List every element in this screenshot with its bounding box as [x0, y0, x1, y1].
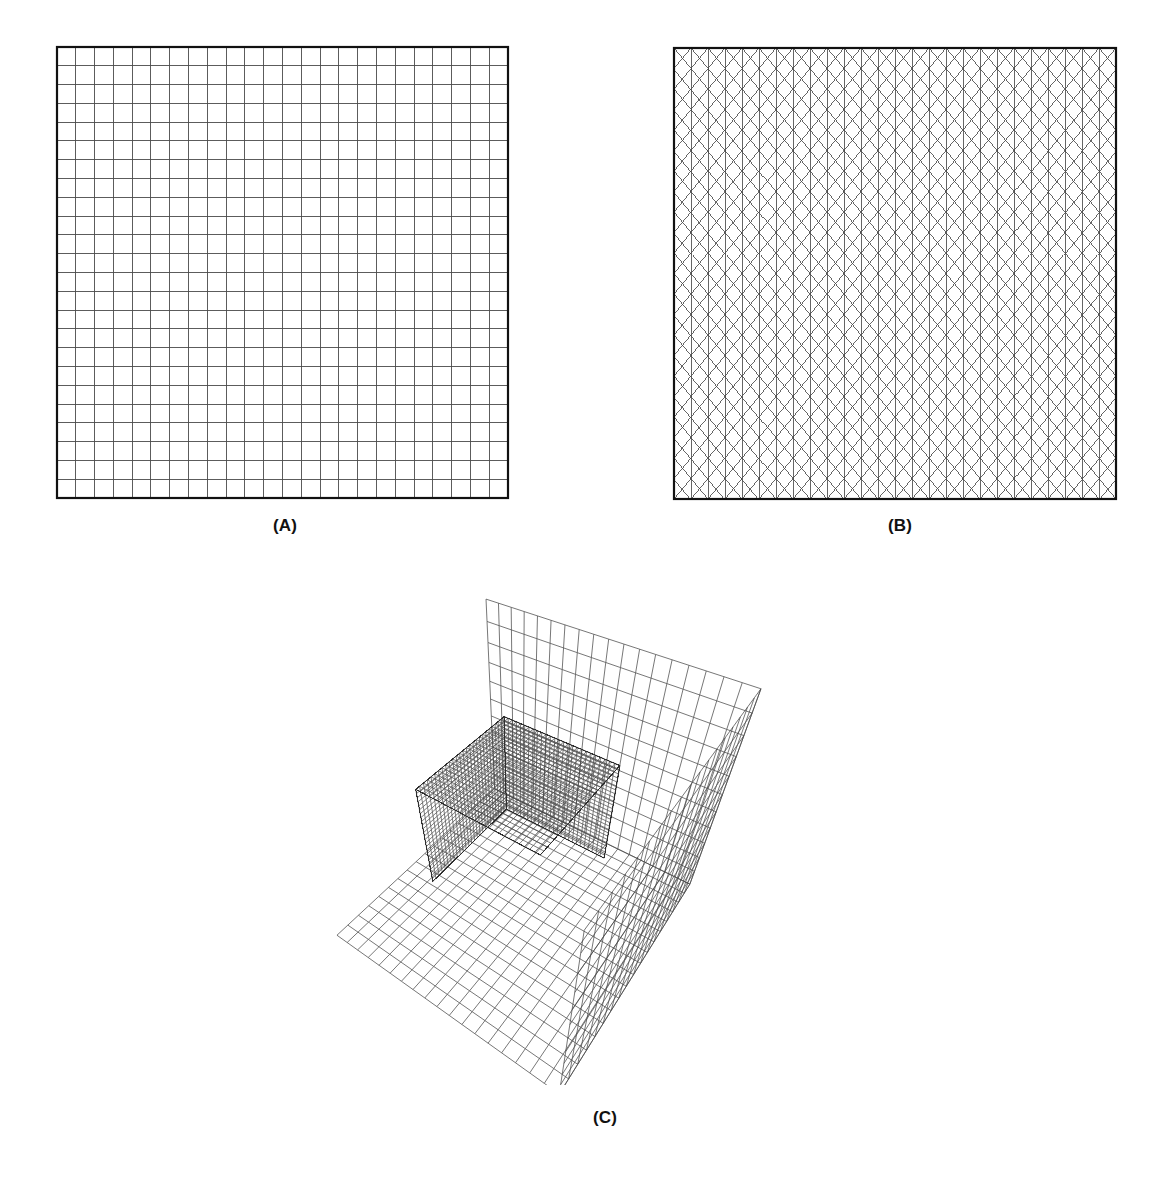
mesh-line-diagonal-left	[1031, 48, 1118, 499]
mesh-line-diagonal-right	[963, 48, 1118, 499]
mesh-line-diagonal-left	[997, 48, 1118, 499]
mesh-line-diagonal-right	[672, 48, 810, 499]
triangular-mesh-svg	[672, 46, 1118, 501]
outer-box-back-wall-line	[572, 776, 729, 1009]
panel-c-hexahedral-mesh	[180, 580, 860, 1085]
mesh-line-diagonal-right	[1031, 48, 1118, 499]
outer-box-back-wall-line	[575, 757, 737, 993]
outer-box-side-wall-line	[488, 643, 744, 736]
mesh-line-diagonal-left	[1014, 48, 1118, 499]
mesh-line-diagonal-left	[672, 48, 963, 499]
mesh-line-diagonal-left	[672, 48, 827, 499]
mesh-line-diagonal-right	[827, 48, 1118, 499]
outer-box-floor-line	[379, 896, 595, 1036]
mesh-line-diagonal-left	[759, 48, 1118, 499]
outer-box-back-wall-line	[561, 871, 695, 1084]
outer-box-floor-line	[347, 793, 504, 942]
inner-cube-edge-vertical-right	[416, 789, 433, 881]
panel-a-caption: (A)	[175, 516, 395, 536]
outer-box-back-wall-line	[660, 737, 725, 931]
outer-box-back-wall-line	[634, 784, 691, 974]
mesh-line-diagonal-left	[1048, 48, 1118, 499]
outer-box-side-wall-line	[486, 599, 761, 689]
mesh-line-diagonal-left	[672, 48, 742, 499]
mesh-line-diagonal-left	[793, 48, 1118, 499]
mesh-line-diagonal-left	[672, 48, 810, 499]
figure-root: (A) (B) (C)	[0, 0, 1167, 1178]
panel-b-triangular-mesh	[672, 46, 1118, 501]
outer-box-floor-line	[337, 789, 495, 935]
outer-box-back-wall-line	[566, 828, 711, 1052]
inner-cube-front-face-line	[416, 721, 504, 794]
mesh-line-diagonal-left	[672, 48, 997, 499]
panel-a-quadrilateral-mesh	[55, 45, 510, 500]
outer-box-floor-line	[458, 823, 661, 932]
mesh-line-diagonal-left	[980, 48, 1118, 499]
hexahedral-mesh-svg	[180, 580, 860, 1085]
mesh-line-diagonal-right	[672, 48, 827, 499]
quadrilateral-mesh-svg	[55, 45, 510, 500]
outer-box-back-wall-line	[679, 707, 748, 902]
mesh-line-diagonal-right	[672, 48, 793, 499]
mesh-line-diagonal-left	[963, 48, 1118, 499]
outer-box-back-wall-line	[581, 713, 752, 953]
mesh-line-diagonal-left	[672, 48, 1031, 499]
outer-box-floor-line	[401, 817, 553, 981]
mesh-line-diagonal-right	[672, 48, 776, 499]
outer-box-side-wall-line	[595, 644, 624, 838]
mesh-line-diagonal-right	[1065, 48, 1118, 499]
inner-cube-front-face-line	[419, 733, 505, 806]
mesh-line-diagonal-right	[997, 48, 1118, 499]
mesh-line-diagonal-left	[672, 48, 725, 499]
mesh-line-diagonal-right	[980, 48, 1118, 499]
mesh-line-diagonal-right	[672, 48, 725, 499]
outer-box-side-wall-line	[585, 639, 609, 833]
outer-box-floor-line	[388, 887, 603, 1023]
mesh-line-diagonal-right	[672, 48, 844, 499]
outer-box-side-wall-line	[487, 621, 752, 713]
mesh-line-diagonal-left	[672, 48, 844, 499]
outer-box-back-wall-line	[654, 748, 717, 941]
mesh-line-diagonal-left	[827, 48, 1118, 499]
mesh-line-diagonal-left	[946, 48, 1118, 499]
outer-box-floor-line	[449, 838, 595, 1015]
outer-box-back-wall-line	[611, 826, 661, 1011]
mesh-line-diagonal-left	[672, 48, 776, 499]
panel-b-caption: (B)	[790, 516, 1010, 536]
mesh-line-diagonal-right	[759, 48, 1118, 499]
quad-mesh-interior-lines	[57, 47, 508, 498]
mesh-line-diagonal-right	[946, 48, 1118, 499]
outer-box-back-wall-line	[564, 843, 705, 1063]
inner-cube-top-face-line	[492, 727, 609, 778]
mesh-line-diagonal-right	[672, 48, 997, 499]
mesh-line-diagonal-right	[672, 48, 1031, 499]
outer-box-floor-line	[368, 803, 523, 958]
mesh-line-diagonal-right	[672, 48, 759, 499]
mesh-line-diagonal-right	[1014, 48, 1118, 499]
triangular-mesh-interior-lines	[672, 48, 1118, 499]
mesh-line-diagonal-right	[1048, 48, 1118, 499]
outer-box-back-wall-line	[673, 717, 741, 912]
outer-box-floor-line	[369, 906, 587, 1050]
mesh-line-diagonal-left	[1065, 48, 1118, 499]
mesh-line-diagonal-right	[672, 48, 742, 499]
mesh-line-diagonal-right	[672, 48, 963, 499]
outer-box-floor-line	[390, 812, 543, 973]
mesh-line-diagonal-left	[672, 48, 759, 499]
mesh-line-diagonal-right	[793, 48, 1118, 499]
outer-box-floor-line	[413, 822, 563, 989]
panel-c-caption: (C)	[495, 1108, 715, 1128]
mesh-line-diagonal-left	[672, 48, 793, 499]
